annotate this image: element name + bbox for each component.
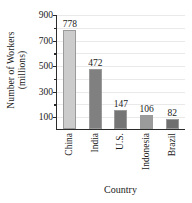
bar-slot: 82 bbox=[159, 15, 185, 129]
bar[interactable] bbox=[89, 69, 102, 129]
x-axis-category-label: India bbox=[90, 133, 100, 153]
bar-value-label: 82 bbox=[167, 108, 177, 118]
bar[interactable] bbox=[140, 115, 153, 129]
plot-area: 77847214710682 bbox=[56, 15, 185, 130]
bar-series: 77847214710682 bbox=[57, 15, 185, 129]
y-axis-tick-label: 100 bbox=[39, 112, 53, 122]
y-axis-tick-label: 500 bbox=[39, 61, 53, 71]
y-axis-title-line2: (millions) bbox=[17, 31, 28, 108]
bar-chart: Number of Workers (millions) 90070050030… bbox=[0, 0, 192, 203]
bar-value-label: 106 bbox=[139, 104, 153, 114]
x-axis-category-label: China bbox=[64, 133, 74, 156]
category-slot: China bbox=[56, 131, 82, 181]
bar-slot: 778 bbox=[57, 15, 83, 129]
category-slot: U.S. bbox=[108, 131, 134, 181]
y-axis-tick-label: 700 bbox=[39, 36, 53, 46]
y-axis-tick-labels: 900700500300100 bbox=[28, 10, 53, 132]
bar[interactable] bbox=[114, 110, 127, 129]
x-axis-category-label: Brazil bbox=[167, 133, 177, 156]
category-slot: India bbox=[82, 131, 108, 181]
y-axis-tick-label: 300 bbox=[39, 87, 53, 97]
x-axis-category-label: U.S. bbox=[115, 133, 125, 150]
x-axis-title: Country bbox=[56, 184, 185, 196]
bar-slot: 147 bbox=[108, 15, 134, 129]
bar-value-label: 778 bbox=[63, 19, 77, 29]
category-slot: Indonesia bbox=[133, 131, 159, 181]
bar-slot: 106 bbox=[134, 15, 160, 129]
y-axis-tick-label: 900 bbox=[39, 10, 53, 20]
x-axis-category-label: Indonesia bbox=[141, 133, 151, 170]
bar-value-label: 472 bbox=[88, 58, 102, 68]
bar-slot: 472 bbox=[83, 15, 109, 129]
x-axis-category-labels: ChinaIndiaU.S.IndonesiaBrazil bbox=[56, 131, 185, 181]
bar[interactable] bbox=[63, 30, 76, 129]
category-slot: Brazil bbox=[159, 131, 185, 181]
y-axis-title-line1: Number of Workers bbox=[6, 31, 16, 108]
bar-value-label: 147 bbox=[114, 99, 128, 109]
bar[interactable] bbox=[166, 119, 179, 129]
